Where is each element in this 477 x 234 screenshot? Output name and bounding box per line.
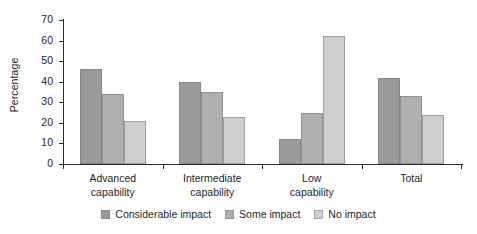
x-axis-line <box>63 164 463 165</box>
y-axis-tick-label: 60 <box>41 34 53 47</box>
category-label: Total <box>362 172 462 186</box>
category-label-line: capability <box>163 186 263 200</box>
x-axis-separator <box>163 164 164 169</box>
bar <box>102 94 124 164</box>
chart-legend: Considerable impactSome impactNo impact <box>0 208 477 220</box>
y-axis-tick-label: 10 <box>41 136 53 149</box>
category-label-line: Intermediate <box>163 172 263 186</box>
y-axis-title: Percentage <box>2 0 26 170</box>
bar <box>400 96 422 164</box>
x-axis-separator <box>461 164 462 169</box>
legend-label: Some impact <box>239 208 300 220</box>
y-axis-tick-label: 40 <box>41 75 53 88</box>
y-axis-tick-label: 50 <box>41 54 53 67</box>
x-axis-separator <box>262 164 263 169</box>
category-label: Lowcapability <box>262 172 362 199</box>
y-axis-tick-label: 30 <box>41 95 53 108</box>
category-label-line: Low <box>262 172 362 186</box>
bar <box>223 117 245 164</box>
y-axis-tick-label: 20 <box>41 116 53 129</box>
y-axis-title-text: Percentage <box>8 58 20 113</box>
legend-label: No impact <box>328 208 375 220</box>
category-label-line: Advanced <box>63 172 163 186</box>
bar <box>179 82 201 164</box>
x-axis-separator <box>63 164 64 169</box>
bar <box>124 121 146 164</box>
legend-swatch-icon <box>314 210 323 219</box>
category-label: Intermediatecapability <box>163 172 263 199</box>
bar <box>378 78 400 164</box>
category-label: Advancedcapability <box>63 172 163 199</box>
bar <box>201 92 223 164</box>
bar <box>422 115 444 164</box>
legend-item[interactable]: No impact <box>314 208 375 220</box>
bar-chart: Percentage 010203040506070 Advancedcapab… <box>0 0 477 234</box>
legend-swatch-icon <box>225 210 234 219</box>
category-label-line: Total <box>362 172 462 186</box>
y-axis-tick-label: 70 <box>41 13 53 26</box>
legend-item[interactable]: Some impact <box>225 208 300 220</box>
legend-label: Considerable impact <box>115 208 211 220</box>
bar <box>80 69 102 164</box>
plot-area <box>63 20 461 164</box>
bar <box>323 36 345 164</box>
y-axis-tick-label: 0 <box>47 157 53 170</box>
x-axis-separator <box>362 164 363 169</box>
category-label-line: capability <box>262 186 362 200</box>
bar <box>279 139 301 164</box>
bar <box>301 113 323 164</box>
category-label-line: capability <box>63 186 163 200</box>
legend-item[interactable]: Considerable impact <box>101 208 211 220</box>
legend-swatch-icon <box>101 210 110 219</box>
